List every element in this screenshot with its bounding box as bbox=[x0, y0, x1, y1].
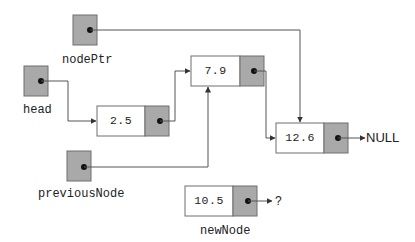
node-7-9-value: 7.9 bbox=[191, 56, 240, 86]
node-10-5-value: 10.5 bbox=[185, 186, 233, 216]
null-terminator: NULL bbox=[366, 131, 399, 145]
node-12-6-value: 12.6 bbox=[276, 123, 324, 153]
head-label: head bbox=[23, 103, 52, 117]
newNode-label: newNode bbox=[200, 224, 250, 238]
previousNode-label: previousNode bbox=[38, 187, 124, 201]
node-2-5-value: 2.5 bbox=[97, 106, 145, 136]
previousNode-box bbox=[67, 151, 91, 181]
linked-list-diagram: nodePtr head previousNode newNode 2.5 7.… bbox=[0, 0, 415, 242]
unknown-next: ? bbox=[275, 194, 282, 208]
nodePtr-label: nodePtr bbox=[62, 53, 112, 67]
